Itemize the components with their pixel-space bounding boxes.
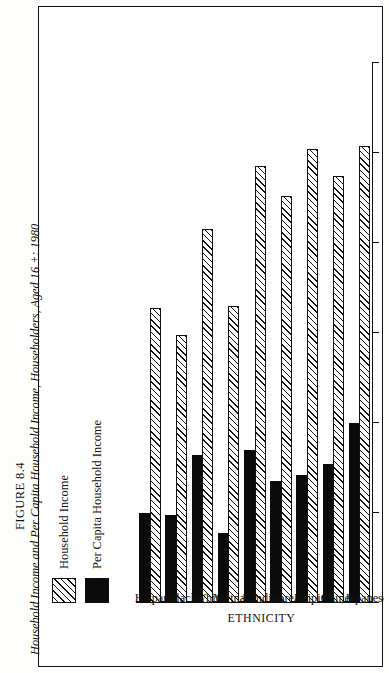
bar-household-income [281,196,292,603]
legend-item-household-income: Household Income [52,420,76,603]
bar-household-income [333,176,344,603]
bar-per-capita-household-income [296,475,307,603]
category-axis-title: ETHNICITY [228,611,296,626]
legend-swatch-solid [85,578,109,603]
bar-group [346,63,372,603]
legend-label-household-income: Household Income [57,475,72,569]
chart-legend: Household Income Per Capita Household In… [52,420,109,603]
bar-household-income [255,166,266,603]
bar-per-capita-household-income [323,464,334,603]
value-tick [372,242,379,243]
bar-per-capita-household-income [139,513,150,603]
bar-per-capita-household-income [192,455,203,603]
bar-per-capita-household-income [349,423,360,603]
bar-group [293,63,319,603]
bar-household-income [359,146,370,603]
bar-per-capita-household-income [270,481,281,603]
bar-chart: Household Income Per Capita Household In… [40,8,384,665]
value-tick [372,422,379,423]
plot-area: 051015202530 JapaneseChineseFilipinoKore… [136,63,372,603]
bar-group [267,63,293,603]
value-tick [372,332,379,333]
bar-group [215,63,241,603]
bar-household-income [307,149,318,603]
bar-household-income [150,308,161,603]
figure-page: FIGURE 8.4 Household Income and Per Capi… [0,0,389,673]
figure-caption: FIGURE 8.4 Household Income and Per Capi… [0,0,40,673]
bar-per-capita-household-income [244,450,255,603]
legend-label-per-capita-household-income: Per Capita Household Income [90,420,105,569]
legend-item-per-capita-household-income: Per Capita Household Income [85,420,109,603]
value-tick [372,512,379,513]
bar-group [136,63,162,603]
bar-household-income [202,229,213,603]
bar-group [162,63,188,603]
value-tick [372,152,379,153]
bar-household-income [176,335,187,603]
bar-group [241,63,267,603]
bar-group [320,63,346,603]
value-tick [372,62,379,63]
bar-group [188,63,214,603]
legend-swatch-hatch [52,578,76,603]
figure-number: FIGURE 8.4 [13,462,28,530]
category-label: Hispanic [135,591,179,606]
bar-household-income [228,306,239,603]
category-label: White [194,591,224,606]
chart-container: Household Income Per Capita Household In… [40,8,384,665]
